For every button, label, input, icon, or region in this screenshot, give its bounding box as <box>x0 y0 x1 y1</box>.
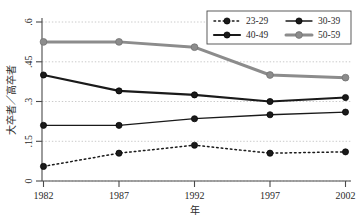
data-point-23-29-1987 <box>116 150 122 156</box>
data-point-30-39-1982 <box>40 122 46 128</box>
y-tick-label-0: 0 <box>23 179 34 184</box>
data-point-23-29-2002 <box>342 149 348 155</box>
legend-label-30-39: 30-39 <box>318 16 340 26</box>
legend-label-40-49: 40-49 <box>246 30 268 40</box>
data-point-23-29-1997 <box>267 150 273 156</box>
series-30-39 <box>40 109 348 128</box>
y-tick-label-06: .6 <box>23 18 34 26</box>
data-point-50-59-1992 <box>191 44 198 51</box>
y-tick-label-03: .3 <box>23 98 34 106</box>
data-point-50-59-2002 <box>342 74 349 81</box>
data-point-40-49-1982 <box>40 72 46 78</box>
x-tick-labels-group: 1982 1987 1992 1997 2002 <box>34 190 356 201</box>
legend-label-50-59: 50-59 <box>318 30 340 40</box>
data-series-layer <box>40 38 349 169</box>
chart-legend: 23-2930-3940-4950-59 <box>207 11 351 44</box>
y-tick-labels-group: 0 .15 .3 .45 .6 <box>23 18 34 183</box>
data-point-40-49-1997 <box>267 98 273 104</box>
x-tick-label-1992: 1992 <box>185 190 205 201</box>
data-point-40-49-2002 <box>342 94 348 100</box>
x-tick-label-1997: 1997 <box>260 190 280 201</box>
data-point-23-29-1992 <box>191 142 197 148</box>
data-point-30-39-1992 <box>191 116 197 122</box>
data-point-50-59-1997 <box>267 72 274 79</box>
y-tick-label-015: .15 <box>23 135 34 148</box>
chart-plot-area: 0 .15 .3 .45 .6 大卒者／高卒者 1982 1987 1992 1… <box>0 0 359 220</box>
line-chart-figure: 0 .15 .3 .45 .6 大卒者／高卒者 1982 1987 1992 1… <box>0 0 359 220</box>
data-point-30-39-2002 <box>342 109 348 115</box>
series-50-59 <box>40 38 349 81</box>
data-point-23-29-1982 <box>40 163 46 169</box>
y-axis-title: 大卒者／高卒者 <box>5 65 17 135</box>
legend-swatch-marker-40-49 <box>224 32 230 38</box>
data-point-40-49-1992 <box>191 92 197 98</box>
data-point-50-59-1987 <box>116 38 123 45</box>
x-axis-title: 年 <box>190 204 200 216</box>
legend-swatch-marker-30-39 <box>296 18 302 24</box>
data-point-50-59-1982 <box>40 38 47 45</box>
data-point-40-49-1987 <box>116 88 122 94</box>
legend-swatch-marker-50-59 <box>296 32 303 39</box>
x-tick-label-1982: 1982 <box>34 190 54 201</box>
x-tick-label-1987: 1987 <box>109 190 129 201</box>
data-point-30-39-1987 <box>116 122 122 128</box>
x-tick-label-2002: 2002 <box>336 190 356 201</box>
y-tick-label-045: .45 <box>23 56 34 69</box>
data-point-30-39-1997 <box>267 112 273 118</box>
series-23-29 <box>40 142 348 169</box>
legend-swatch-marker-23-29 <box>224 18 230 24</box>
legend-label-23-29: 23-29 <box>246 16 268 26</box>
